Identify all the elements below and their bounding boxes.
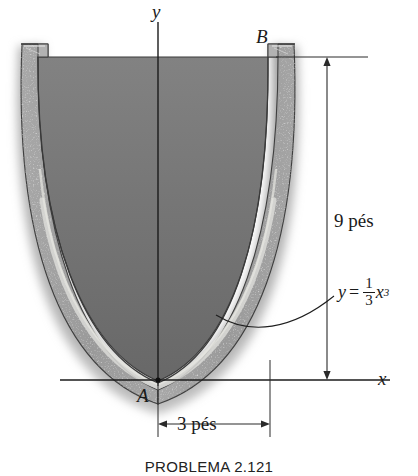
problem-figure: y B A x 9 pés 3 pés y = 1 3 x3 PROBLEMA … [0,0,418,476]
point-a-label: A [137,386,149,405]
equation-denominator: 3 [363,293,375,309]
equation-variable: x [376,282,384,303]
figure-caption: PROBLEMA 2.121 [0,458,418,475]
dimension-label-9pes: 9 pés [334,211,374,230]
curve-equation-label: y = 1 3 x3 [338,276,389,309]
equation-lhs: y [338,282,346,303]
equation-equals: = [349,282,359,303]
y-axis-label: y [152,2,160,21]
equation-exponent: 3 [384,286,390,298]
dimension-label-3pes: 3 pés [177,414,217,433]
point-a-marker [155,377,160,382]
equation-numerator: 1 [363,276,375,292]
x-axis-label: x [378,369,386,388]
point-b-label: B [256,27,268,46]
equation-fraction: 1 3 [363,276,375,309]
vessel-diagram-svg [0,0,418,476]
